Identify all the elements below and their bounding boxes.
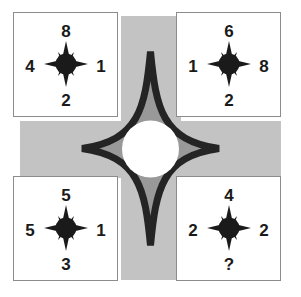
puzzle-figure: 8 4 1 2 6 1 8 2 5 5 1 3 4 2 2 ? xyxy=(0,0,301,297)
quadrant-card-bottom-right[interactable]: 4 2 2 ? xyxy=(176,176,281,281)
card-number-right: 1 xyxy=(91,58,111,75)
quadrant-card-bottom-left[interactable]: 5 5 1 3 xyxy=(13,176,118,281)
card-number-bottom: 2 xyxy=(219,92,239,109)
card-number-missing: ? xyxy=(219,256,239,273)
center-circle xyxy=(122,121,179,178)
card-number-left: 2 xyxy=(183,222,203,239)
quadrant-card-top-left[interactable]: 8 4 1 2 xyxy=(13,12,118,117)
card-number-top: 8 xyxy=(56,23,76,40)
card-number-top: 6 xyxy=(219,23,239,40)
card-number-bottom: 3 xyxy=(56,256,76,273)
card-number-top: 5 xyxy=(56,187,76,204)
compass-rose-icon xyxy=(207,41,251,87)
compass-rose-icon xyxy=(44,41,88,87)
card-number-right: 2 xyxy=(254,222,274,239)
card-number-left: 1 xyxy=(183,58,203,75)
card-number-left: 4 xyxy=(20,58,40,75)
card-number-top: 4 xyxy=(219,187,239,204)
compass-rose-icon xyxy=(207,205,251,251)
quadrant-card-top-right[interactable]: 6 1 8 2 xyxy=(176,12,281,117)
card-number-bottom: 2 xyxy=(56,92,76,109)
card-number-right: 1 xyxy=(91,222,111,239)
compass-rose-icon xyxy=(44,205,88,251)
card-number-left: 5 xyxy=(20,222,40,239)
card-number-right: 8 xyxy=(254,58,274,75)
